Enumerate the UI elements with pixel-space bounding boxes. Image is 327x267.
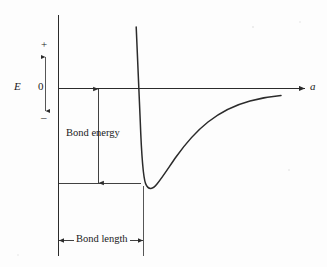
positive-sign-label: + bbox=[41, 39, 47, 50]
plot-area bbox=[0, 0, 327, 267]
potential-energy-curve bbox=[136, 27, 281, 188]
bond-energy-label: Bond energy bbox=[66, 128, 120, 139]
bond-energy-diagram: E 0 + – a Bond energy Bond length bbox=[0, 0, 327, 267]
energy-axis-label: E bbox=[14, 81, 21, 92]
negative-sign-label: – bbox=[41, 112, 47, 123]
distance-axis-label: a bbox=[310, 81, 316, 92]
bond-length-label: Bond length bbox=[74, 234, 130, 245]
zero-tick-label: 0 bbox=[38, 81, 44, 92]
